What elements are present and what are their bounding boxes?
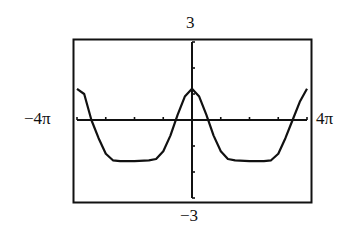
- graph-plot: [0, 0, 361, 234]
- axes: [77, 42, 307, 198]
